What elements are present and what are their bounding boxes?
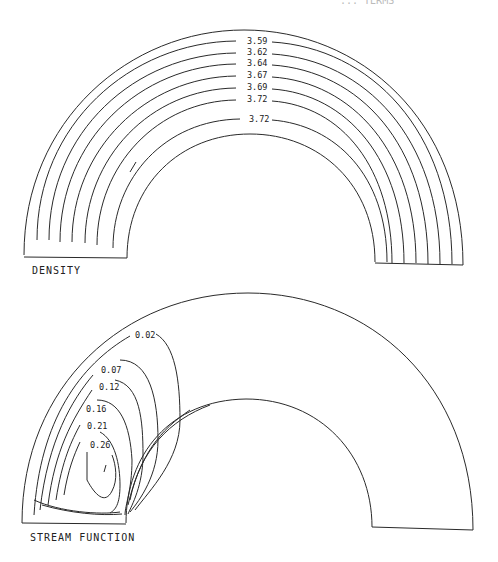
- stream-label-4: 0.16: [86, 404, 106, 414]
- stream-inner-boundary: [126, 399, 372, 527]
- stream-panel: 0.02 0.07 0.12 0.16 0.21 0.26 STREAM FUN…: [22, 293, 473, 543]
- density-left-base: [24, 257, 127, 258]
- stream-left-base: [22, 523, 126, 524]
- density-title: DENSITY: [32, 265, 81, 276]
- stream-label-6: 0.26: [90, 440, 110, 450]
- density-label-5: 3.69: [247, 82, 267, 92]
- stream-contours: [34, 334, 210, 515]
- figure: ... TERMS 3.59 3: [0, 0, 498, 562]
- header-text: ... TERMS: [340, 0, 394, 6]
- density-label-7: 3.72: [249, 114, 269, 124]
- stream-title: STREAM FUNCTION: [30, 532, 135, 543]
- stream-label-2: 0.07: [101, 365, 121, 375]
- density-label-1: 3.59: [247, 36, 267, 46]
- density-outer-boundary: [24, 30, 463, 265]
- stream-label-1: 0.02: [135, 330, 155, 340]
- density-label-3: 3.64: [247, 58, 267, 68]
- density-label-6: 3.72: [247, 94, 267, 104]
- stream-right-base: [372, 527, 473, 530]
- density-contours: [37, 41, 452, 264]
- density-right-base: [375, 263, 463, 265]
- stream-label-5: 0.21: [87, 421, 107, 431]
- density-panel: 3.59 3.62 3.64 3.67 3.69 3.72 3.72 DENSI…: [24, 30, 463, 276]
- stream-label-3: 0.12: [99, 382, 119, 392]
- density-label-4: 3.67: [247, 70, 267, 80]
- density-label-2: 3.62: [247, 47, 267, 57]
- density-inner-boundary: [127, 134, 375, 262]
